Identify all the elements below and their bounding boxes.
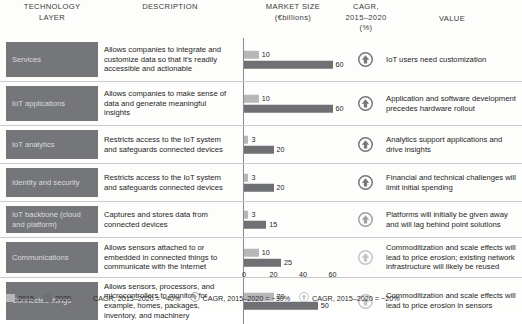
- header-technology-layer-line1: TECHNOLOGY: [24, 2, 81, 11]
- table-row: IoT backbone (cloud and platform)Capture…: [0, 202, 522, 238]
- value-text: Commoditization and scale effects will l…: [386, 243, 516, 272]
- bar-group: 1060: [244, 49, 348, 70]
- technology-layer-label: Identity and security: [12, 178, 80, 188]
- bar-2015: [244, 136, 248, 144]
- cagr-cell: [348, 82, 382, 125]
- technology-layer-label: IoT backbone (cloud and platform): [12, 210, 92, 229]
- technology-layer-label: Services: [12, 55, 41, 65]
- bar-2020-row: 60: [244, 60, 348, 68]
- bar-2020: [244, 183, 274, 191]
- value-text: Financial and technical challenges will …: [386, 173, 516, 192]
- legend-label-2020: 2020: [55, 294, 71, 303]
- table-body: ServicesAllows companies to integrate an…: [0, 38, 522, 268]
- technology-layer-chip[interactable]: Services: [6, 42, 98, 77]
- value-cell: Platforms will initially be given away a…: [386, 202, 520, 237]
- legend-swatch-2015-icon: [6, 294, 15, 302]
- value-cell: Application and software development pre…: [386, 82, 520, 125]
- bar-2015-value-label: 3: [251, 210, 255, 219]
- market-size-bar-cell: 315: [240, 202, 348, 237]
- header-cagr-line1: CAGR,: [353, 2, 379, 11]
- cagr-cell: [348, 238, 382, 277]
- technology-layer-chip[interactable]: Identity and security: [6, 168, 98, 197]
- bar-2015-row: 10: [244, 51, 348, 59]
- legend-label-cagr-40: CAGR, 2015–2020 = ~40%: [93, 294, 181, 303]
- table-row: IoT analyticsRestricts access to the IoT…: [0, 126, 522, 164]
- bar-2020-value-label: 60: [336, 59, 344, 68]
- value-cell: Analytics support applications and drive…: [386, 126, 520, 163]
- cagr-cell: [348, 126, 382, 163]
- value-text: Analytics support applications and drive…: [386, 135, 516, 154]
- header-value-label: VALUE: [439, 14, 465, 23]
- description-text: Allows companies to make sense of data a…: [104, 89, 234, 118]
- bar-2020-value-label: 25: [284, 257, 292, 266]
- bar-2020: [244, 258, 281, 266]
- technology-layer-label: IoT analytics: [12, 140, 55, 150]
- table-header-row: TECHNOLOGY LAYER DESCRIPTION MARKET SIZE…: [0, 0, 522, 38]
- market-size-bar-cell: 1060: [240, 38, 348, 81]
- arrow-up-circle-icon: [358, 52, 373, 67]
- bar-2015-row: 3: [244, 211, 348, 219]
- description-cell: Allows sensors attached to or embedded i…: [104, 238, 238, 277]
- bar-2015: [244, 174, 248, 182]
- axis-tick-label: 20: [270, 270, 278, 279]
- bar-2015-row: 3: [244, 174, 348, 182]
- header-cagr-units: (%): [340, 23, 392, 34]
- legend-label-2015: 2015: [18, 294, 34, 303]
- bar-2020-row: 25: [244, 258, 348, 266]
- bar-2020-row: 60: [244, 104, 348, 112]
- legend-item-cagr-20: CAGR, 2015–2020 = ~20%: [299, 292, 400, 304]
- bar-2015: [244, 51, 259, 59]
- chart-legend: 2015 2020 CAGR, 2015–2020 = ~40% CAGR, 2…: [6, 290, 516, 306]
- bar-2020: [244, 60, 333, 68]
- chart-x-axis: 0204060: [240, 270, 348, 282]
- axis-tick-label: 0: [242, 270, 246, 279]
- arrow-up-circle-dark-icon: [80, 292, 90, 304]
- header-technology-layer: TECHNOLOGY LAYER: [6, 2, 98, 23]
- table-row: Identity and securityRestricts access to…: [0, 164, 522, 202]
- header-description: DESCRIPTION: [104, 2, 236, 13]
- bar-group: 1060: [244, 93, 348, 114]
- description-text: Restricts access to the IoT system and s…: [104, 135, 234, 154]
- technology-layer-chip[interactable]: IoT analytics: [6, 130, 98, 159]
- bar-group: 315: [244, 209, 348, 230]
- technology-layer-chip[interactable]: IoT applications: [6, 86, 98, 121]
- value-cell: Financial and technical challenges will …: [386, 164, 520, 201]
- bar-2020-value-label: 20: [277, 144, 285, 153]
- cagr-cell: [348, 164, 382, 201]
- header-cagr: CAGR, 2015–2020 (%): [340, 2, 392, 34]
- technology-layer-label: IoT applications: [12, 99, 65, 109]
- legend-item-2020: 2020: [43, 294, 71, 303]
- arrow-up-circle-mid-icon: [190, 292, 200, 304]
- bar-2015-row: 10: [244, 249, 348, 257]
- market-size-bar-cell: 320: [240, 126, 348, 163]
- description-cell: Captures and stores data from connected …: [104, 202, 238, 237]
- bar-2020-row: 20: [244, 145, 348, 153]
- legend-label-cagr-20: CAGR, 2015–2020 = ~20%: [312, 294, 400, 303]
- axis-tick-label: 40: [299, 270, 307, 279]
- bar-2015-value-label: 10: [262, 94, 270, 103]
- value-text: IoT users need customization: [386, 55, 486, 65]
- legend-item-2015: 2015: [6, 294, 34, 303]
- header-value: VALUE: [386, 14, 518, 25]
- description-cell: Allows companies to make sense of data a…: [104, 82, 238, 125]
- cagr-cell: [348, 202, 382, 237]
- header-market-size-line1: MARKET SIZE: [266, 2, 320, 11]
- description-text: Captures and stores data from connected …: [104, 210, 234, 229]
- value-cell: Commoditization and scale effects will l…: [386, 238, 520, 277]
- value-text: Platforms will initially be given away a…: [386, 210, 516, 229]
- bar-2015-value-label: 10: [262, 248, 270, 257]
- legend-item-cagr-30: CAGR, 2015–2020 = ~30%: [190, 292, 291, 304]
- description-cell: Restricts access to the IoT system and s…: [104, 164, 238, 201]
- technology-layer-chip[interactable]: IoT backbone (cloud and platform): [6, 206, 98, 233]
- technology-layer-chip[interactable]: Communications: [6, 242, 98, 273]
- bar-2015: [244, 95, 259, 103]
- bar-2015-value-label: 3: [251, 135, 255, 144]
- table-row: ServicesAllows companies to integrate an…: [0, 38, 522, 82]
- market-size-bar-cell: 320: [240, 164, 348, 201]
- header-cagr-line2: 2015–2020: [340, 13, 392, 24]
- bar-group: 320: [244, 134, 348, 155]
- technology-layer-label: Communications: [12, 253, 69, 263]
- header-market-size: MARKET SIZE (€billions): [240, 2, 346, 23]
- description-text: Restricts access to the IoT system and s…: [104, 173, 234, 192]
